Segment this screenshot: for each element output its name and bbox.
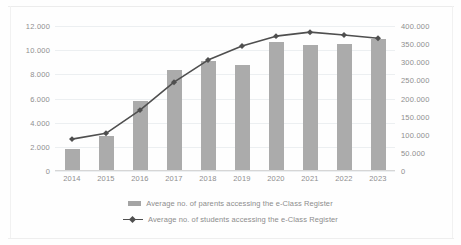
line-marker-2014 — [69, 136, 75, 142]
x-axis-tick-2016: 2016 — [131, 174, 149, 183]
line-markers — [69, 29, 381, 142]
gridline — [55, 171, 395, 172]
line-marker-2023 — [375, 35, 381, 41]
x-axis-tick-2020: 2020 — [267, 174, 285, 183]
x-axis-tick-2022: 2022 — [335, 174, 353, 183]
x-axis-tick-2018: 2018 — [199, 174, 217, 183]
legend-line-marker-icon — [123, 216, 143, 223]
legend-bar-swatch-icon — [128, 201, 141, 206]
x-axis-tick-2019: 2019 — [233, 174, 251, 183]
chart-container: 02.0004.0006.0008.00010.00012.000 050.00… — [0, 0, 461, 245]
left-axis-tick-2.000: 2.000 — [30, 142, 50, 151]
x-axis-tick-2014: 2014 — [63, 174, 81, 183]
line-series-students — [55, 26, 395, 171]
right-axis-tick-300.000: 300.000 — [401, 58, 430, 67]
legend-label-students: Average no. of students accessing the e-… — [148, 215, 338, 224]
x-axis-tick-2015: 2015 — [97, 174, 115, 183]
line-path — [72, 32, 378, 139]
plot-area: 02.0004.0006.0008.00010.00012.000 050.00… — [55, 26, 395, 171]
card-bottom-border — [8, 238, 454, 239]
right-axis-tick-200.000: 200.000 — [401, 94, 430, 103]
right-axis-tick-350.000: 350.000 — [401, 40, 430, 49]
x-axis-tick-labels: 2014201520162017201820192020202120222023 — [55, 174, 395, 188]
line-marker-2021 — [307, 29, 313, 35]
chart-legend: Average no. of parents accessing the e-C… — [0, 195, 461, 227]
x-axis-tick-2017: 2017 — [165, 174, 183, 183]
left-axis-tick-4.000: 4.000 — [30, 118, 50, 127]
legend-item-parents: Average no. of parents accessing the e-C… — [0, 195, 461, 211]
legend-label-parents: Average no. of parents accessing the e-C… — [146, 199, 333, 208]
legend-item-students: Average no. of students accessing the e-… — [0, 211, 461, 227]
left-axis-tick-0: 0 — [46, 167, 50, 176]
line-marker-2020 — [273, 33, 279, 39]
line-marker-2022 — [341, 32, 347, 38]
left-axis-tick-10.000: 10.000 — [26, 46, 50, 55]
left-axis-tick-6.000: 6.000 — [30, 94, 50, 103]
line-marker-2019 — [239, 43, 245, 49]
right-axis-tick-250.000: 250.000 — [401, 76, 430, 85]
x-axis-tick-2023: 2023 — [369, 174, 387, 183]
x-axis-baseline — [55, 170, 395, 171]
left-axis-tick-8.000: 8.000 — [30, 70, 50, 79]
x-axis-tick-2021: 2021 — [301, 174, 319, 183]
left-axis-tick-12.000: 12.000 — [26, 22, 50, 31]
right-axis-tick-100.000: 100.000 — [401, 130, 430, 139]
right-axis-tick-400.000: 400.000 — [401, 22, 430, 31]
right-axis-tick-150.000: 150.000 — [401, 112, 430, 121]
right-axis-tick-50.000: 50.000 — [401, 148, 425, 157]
card-top-border — [8, 6, 454, 7]
right-axis-tick-0: 0 — [401, 167, 405, 176]
